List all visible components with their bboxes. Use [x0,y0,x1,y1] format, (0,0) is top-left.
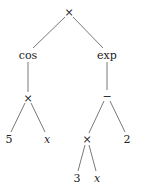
tree-node-n9: 3 [74,172,81,185]
tree-edge [73,17,103,48]
tree-node-n1: cos [19,49,38,62]
tree-edge [89,145,96,171]
tree-node-n2: exp [97,49,117,62]
tree-nodes: ×cosexp×−5x×23x [6,6,131,185]
tree-node-n10: x [94,172,101,185]
tree-node-n3: × [23,92,32,105]
tree-node-n0: × [64,6,73,19]
tree-node-n6: x [44,133,51,146]
tree-node-n4: − [102,90,111,103]
tree-edge [78,145,85,171]
tree-node-n7: × [82,133,91,146]
tree-edge [11,103,25,132]
tree-edge [33,17,65,48]
tree-edge [31,103,45,132]
expression-tree: ×cosexp×−5x×23x [0,0,141,189]
tree-edge [110,101,125,132]
tree-edge [89,101,104,133]
tree-node-n8: 2 [124,133,131,146]
tree-node-n5: 5 [6,133,13,146]
